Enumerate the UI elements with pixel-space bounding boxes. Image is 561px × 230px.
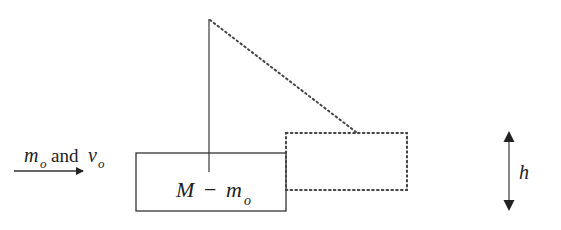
projectile-label: m o and v o xyxy=(24,144,105,171)
ballistic-pendulum-diagram: m o and v o M − m o h xyxy=(0,0,561,230)
conjunction-text: and xyxy=(51,145,79,166)
mass-subscript: o xyxy=(40,156,47,171)
velocity-symbol: v xyxy=(88,144,97,166)
mass-symbol: m xyxy=(24,144,38,166)
height-label: h xyxy=(519,161,529,183)
block-label: M − m o xyxy=(175,177,251,208)
string-swung-line xyxy=(210,20,356,132)
height-arrow-icon xyxy=(504,131,515,211)
displaced-block xyxy=(286,133,407,190)
block-operator: − xyxy=(204,177,216,202)
velocity-subscript: o xyxy=(98,156,105,171)
block-mass-symbol: M xyxy=(175,177,196,202)
block-submass-subscript: o xyxy=(244,193,251,208)
block-submass-symbol: m xyxy=(226,177,242,202)
